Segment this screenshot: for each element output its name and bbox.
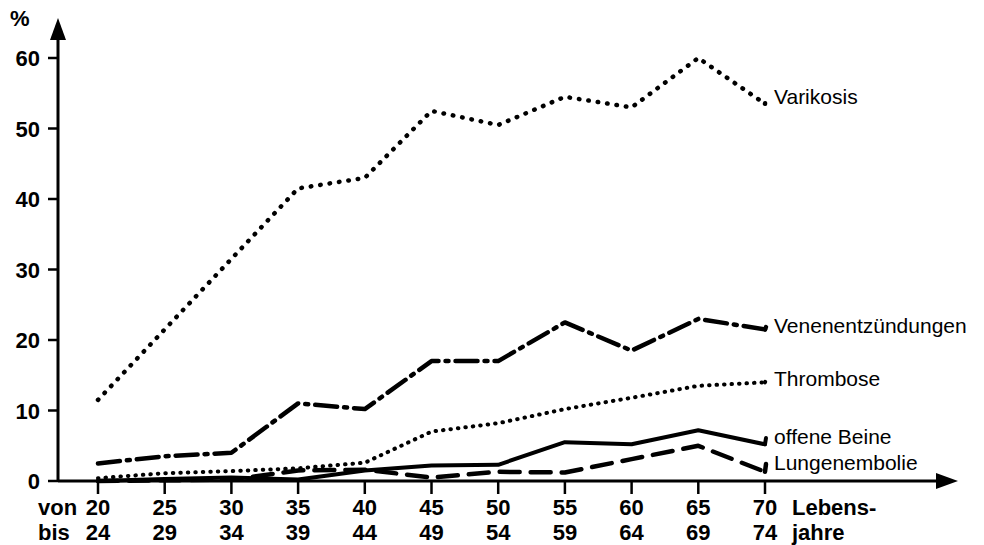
x-category-from-35: 35 xyxy=(286,495,310,520)
x-category-to-39: 39 xyxy=(286,520,310,545)
series-leader-lungenembolie xyxy=(765,464,766,472)
series-label-venenentz-ndungen: Venenentzündungen xyxy=(774,314,967,337)
x-category-from-20: 20 xyxy=(86,495,110,520)
x-category-from-45: 45 xyxy=(419,495,443,520)
y-tick-label-20: 20 xyxy=(16,328,40,353)
series-leader-venenentz-ndungen xyxy=(765,327,766,329)
series-leader-thrombose xyxy=(765,380,766,382)
x-category-to-34: 34 xyxy=(219,520,244,545)
x-category-to-29: 29 xyxy=(152,520,176,545)
series-line-lungenembolie xyxy=(98,446,765,481)
series-line-varikosis xyxy=(98,58,765,400)
x-axis-title-line2: jahre xyxy=(791,520,845,545)
x-category-to-64: 64 xyxy=(619,520,644,545)
x-category-from-40: 40 xyxy=(353,495,377,520)
x-axis-arrow-icon xyxy=(936,473,958,489)
series-label-thrombose: Thrombose xyxy=(774,367,880,390)
chart-page: 0102030405060 % VarikosisVenenentzündung… xyxy=(0,0,984,545)
x-axis-row-label-von: von xyxy=(38,495,77,520)
x-category-from-65: 65 xyxy=(686,495,710,520)
x-category-from-60: 60 xyxy=(619,495,643,520)
series-leader-offene-beine xyxy=(765,438,766,444)
series-leader-varikosis xyxy=(765,98,766,104)
series-label-varikosis: Varikosis xyxy=(774,85,858,108)
x-category-to-54: 54 xyxy=(486,520,511,545)
y-axis-unit-label: % xyxy=(10,6,30,31)
x-category-from-25: 25 xyxy=(152,495,176,520)
x-category-to-69: 69 xyxy=(686,520,710,545)
y-tick-label-50: 50 xyxy=(16,117,40,142)
x-category-from-30: 30 xyxy=(219,495,243,520)
x-category-to-49: 49 xyxy=(419,520,443,545)
x-axis-ticks xyxy=(98,481,765,494)
x-category-from-50: 50 xyxy=(486,495,510,520)
y-tick-label-0: 0 xyxy=(28,469,40,494)
x-category-to-24: 24 xyxy=(86,520,111,545)
x-category-to-59: 59 xyxy=(553,520,577,545)
y-tick-label-30: 30 xyxy=(16,258,40,283)
x-axis-title-line1: Lebens- xyxy=(792,495,876,520)
line-chart-svg: 0102030405060 % VarikosisVenenentzündung… xyxy=(0,0,984,545)
x-category-from-55: 55 xyxy=(553,495,577,520)
x-category-from-70: 70 xyxy=(753,495,777,520)
y-tick-label-40: 40 xyxy=(16,187,40,212)
series-label-lungenembolie: Lungenembolie xyxy=(774,451,918,474)
x-category-to-44: 44 xyxy=(353,520,378,545)
y-tick-label-10: 10 xyxy=(16,399,40,424)
y-axis-arrow-icon xyxy=(50,18,66,40)
y-axis-ticks: 0102030405060 xyxy=(16,46,58,494)
x-axis-row-label-bis: bis xyxy=(38,520,70,545)
series-label-offene-beine: offene Beine xyxy=(774,425,892,448)
y-tick-label-60: 60 xyxy=(16,46,40,71)
series-group xyxy=(98,58,766,481)
series-labels: VarikosisVenenentzündungenThromboseoffen… xyxy=(774,85,967,474)
x-category-labels: 2024252930343539404445495054555960646569… xyxy=(86,495,778,545)
x-category-to-74: 74 xyxy=(753,520,778,545)
